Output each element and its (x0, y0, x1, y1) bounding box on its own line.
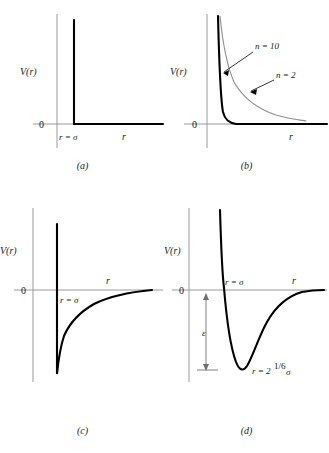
y-axis-label-b: V(r) (170, 66, 187, 78)
zero-tick-c: 0 (21, 285, 26, 296)
panel-c: V(r) 0 r = σ r (0, 196, 165, 394)
zero-tick-b: 0 (192, 119, 197, 130)
minimum-position-text: r = 2 (252, 366, 271, 376)
y-axis-label-a: V(r) (20, 66, 37, 78)
y-axis-label-d: V(r) (164, 245, 181, 257)
well-depth-label: ε (202, 328, 206, 338)
x-axis-label-d: r (292, 275, 296, 286)
minimum-position-exponent: 1/6 (274, 361, 286, 371)
n2-leader (251, 80, 274, 91)
caption-b: (b) (164, 160, 329, 171)
n2-label: n = 2 (276, 70, 296, 80)
caption-d: (d) (164, 425, 329, 436)
zero-tick-a: 0 (39, 119, 44, 130)
panel-c-plot: V(r) 0 r = σ r (0, 196, 165, 394)
sigma-marker-a: r = σ (59, 132, 78, 142)
hard-sphere-curve (74, 20, 163, 124)
sigma-marker-c: r = σ (60, 295, 79, 305)
panel-b: V(r) 0 n = 10 n = 2 r (164, 0, 329, 160)
well-depth-arrowhead-top (203, 293, 209, 300)
x-axis-label-b: r (289, 131, 293, 142)
n10-curve (218, 16, 327, 124)
sigma-marker-d: r = σ (225, 277, 244, 287)
caption-c: (c) (0, 425, 165, 436)
n10-leader (224, 52, 253, 72)
minimum-position-label: r = 2 1/6 σ (252, 361, 291, 377)
zero-tick-d: 0 (179, 285, 184, 296)
n10-label: n = 10 (255, 41, 280, 51)
n2-curve (220, 16, 306, 121)
panel-d-plot: V(r) 0 r = σ ε r r = 2 1/6 σ (164, 196, 329, 394)
x-axis-label-c: r (106, 275, 110, 286)
minimum-position-sigma: σ (286, 367, 291, 377)
panel-b-plot: V(r) 0 n = 10 n = 2 r (164, 0, 329, 160)
x-axis-label-a: r (122, 131, 126, 142)
panel-d: V(r) 0 r = σ ε r r = 2 1/6 σ (164, 196, 329, 394)
potential-energy-figure: V(r) 0 r = σ r (a) V(r) 0 n = 10 n = 2 r… (0, 0, 329, 453)
caption-a: (a) (0, 160, 165, 171)
y-axis-label-c: V(r) (0, 245, 17, 257)
panel-a: V(r) 0 r = σ r (0, 0, 165, 160)
panel-a-plot: V(r) 0 r = σ r (0, 0, 165, 160)
